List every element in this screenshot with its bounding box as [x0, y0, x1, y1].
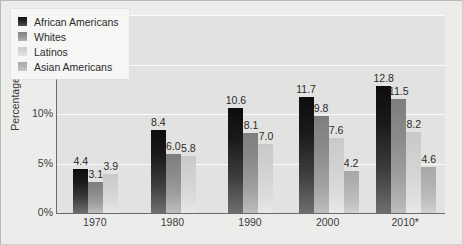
legend-item-label: Latinos	[34, 46, 68, 58]
bar-fill	[329, 138, 344, 213]
legend-item: Latinos	[18, 44, 119, 59]
bar: 8.2	[406, 132, 421, 213]
bar-value-label: 3.9	[103, 160, 118, 172]
bar: 10.6	[228, 108, 243, 213]
bar-fill	[151, 130, 166, 213]
legend-swatch-icon	[18, 62, 27, 71]
bar: 8.1	[243, 133, 258, 213]
bar-value-label: 8.4	[151, 116, 166, 128]
y-axis-tick-5: 5%	[9, 157, 53, 169]
bar: 4.4	[73, 169, 88, 213]
legend-item-label: Whites	[34, 31, 66, 43]
bar-value-label: 6.0	[166, 140, 181, 152]
bar-value-label: 9.8	[314, 102, 329, 114]
chart-frame: Percentage 0%5%10%15%20% 4.43.13.98.46.0…	[0, 0, 463, 245]
bar-group: 12.811.58.24.6	[367, 15, 445, 213]
bar: 11.7	[299, 97, 314, 213]
bar: 8.4	[151, 130, 166, 213]
x-axis-tick-2000: 2000	[289, 216, 367, 228]
bar-value-label: 4.2	[344, 157, 359, 169]
bar-value-label: 8.2	[406, 118, 421, 130]
bar-value-label: 5.8	[181, 142, 196, 154]
x-axis-tick-labels: 19701980199020002010*	[56, 216, 444, 236]
y-axis-tick-10: 10%	[9, 107, 53, 119]
bar: 11.5	[391, 99, 406, 213]
bar-value-label: 12.8	[373, 72, 393, 84]
bar: 4.6	[421, 167, 436, 213]
legend-item-label: African Americans	[34, 16, 119, 28]
bar: 12.8	[376, 86, 391, 213]
bar-fill	[243, 133, 258, 213]
legend-item: Whites	[18, 29, 119, 44]
bar-group: 11.79.87.64.2	[290, 15, 368, 213]
legend-swatch-icon	[18, 47, 27, 56]
bar: 4.2	[344, 171, 359, 213]
legend-item: African Americans	[18, 14, 119, 29]
bar-fill	[166, 154, 181, 213]
bar-value-label: 11.5	[389, 85, 409, 97]
bar-value-label: 4.4	[73, 155, 88, 167]
bar-value-label: 11.7	[296, 83, 316, 95]
bar: 9.8	[314, 116, 329, 213]
legend-item-label: Asian Americans	[34, 61, 112, 73]
bar-value-label: 4.6	[421, 153, 436, 165]
x-axis-tick-1980: 1980	[134, 216, 212, 228]
bar-fill	[73, 169, 88, 213]
bar-value-label: 7.0	[259, 130, 274, 142]
bar-fill	[314, 116, 329, 213]
bar-fill	[299, 97, 314, 213]
bar: 7.6	[329, 138, 344, 213]
bar-fill	[406, 132, 421, 213]
bar-group: 10.68.17.0	[212, 15, 290, 213]
x-axis-tick-1970: 1970	[56, 216, 134, 228]
bar: 6.0	[166, 154, 181, 213]
bar-fill	[258, 144, 273, 213]
bar-value-label: 10.6	[226, 94, 246, 106]
bar-value-label: 7.6	[329, 124, 344, 136]
x-axis-tick-1990: 1990	[211, 216, 289, 228]
bar-fill	[88, 182, 103, 213]
bar-fill	[228, 108, 243, 213]
bar-value-label: 8.1	[244, 119, 259, 131]
y-axis-tick-0: 0%	[9, 206, 53, 218]
bar-group: 8.46.05.8	[135, 15, 213, 213]
bar-value-label: 3.1	[88, 168, 103, 180]
bar-fill	[376, 86, 391, 213]
bar-fill	[181, 156, 196, 213]
legend-swatch-icon	[18, 17, 27, 26]
bar: 3.1	[88, 182, 103, 213]
bar: 7.0	[258, 144, 273, 213]
bar-fill	[421, 167, 436, 213]
legend-swatch-icon	[18, 32, 27, 41]
bar: 5.8	[181, 156, 196, 213]
legend-item: Asian Americans	[18, 59, 119, 74]
bar-fill	[391, 99, 406, 213]
x-axis-tick-2010: 2010*	[366, 216, 444, 228]
bar-fill	[344, 171, 359, 213]
bar-fill	[103, 174, 118, 213]
bar: 3.9	[103, 174, 118, 213]
chart-legend: African AmericansWhitesLatinosAsian Amer…	[11, 9, 129, 79]
